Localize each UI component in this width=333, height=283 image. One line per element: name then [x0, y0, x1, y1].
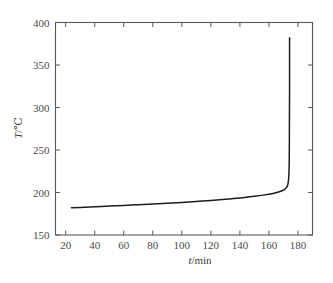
- y-tick-label: 150: [33, 229, 50, 241]
- x-tick-label: 100: [174, 239, 191, 251]
- y-tick-label: 250: [33, 144, 50, 156]
- x-tick-label: 40: [89, 239, 101, 251]
- x-tick-label: 80: [147, 239, 159, 251]
- y-axis-title: T/℃: [12, 117, 24, 139]
- x-tick-labels: 20406080100120140160180: [60, 239, 307, 251]
- data-curve-temperature: [71, 38, 289, 208]
- chart-figure: 20406080100120140160180 1502002503003504…: [0, 0, 333, 283]
- y-tick-label: 350: [33, 59, 50, 71]
- x-axis-title: t/min: [188, 254, 212, 266]
- x-tick-label: 180: [290, 239, 307, 251]
- line-chart: 20406080100120140160180 1502002503003504…: [0, 0, 333, 283]
- y-tick-marks: [56, 23, 313, 236]
- y-tick-labels: 150200250300350400: [33, 17, 50, 242]
- x-tick-label: 60: [118, 239, 130, 251]
- x-tick-label: 160: [261, 239, 278, 251]
- x-tick-label: 140: [232, 239, 249, 251]
- y-tick-label: 400: [33, 17, 50, 29]
- plot-frame: [56, 23, 313, 236]
- y-tick-label: 200: [33, 187, 50, 199]
- x-tick-label: 20: [60, 239, 72, 251]
- y-tick-label: 300: [33, 102, 50, 114]
- x-tick-label: 120: [203, 239, 220, 251]
